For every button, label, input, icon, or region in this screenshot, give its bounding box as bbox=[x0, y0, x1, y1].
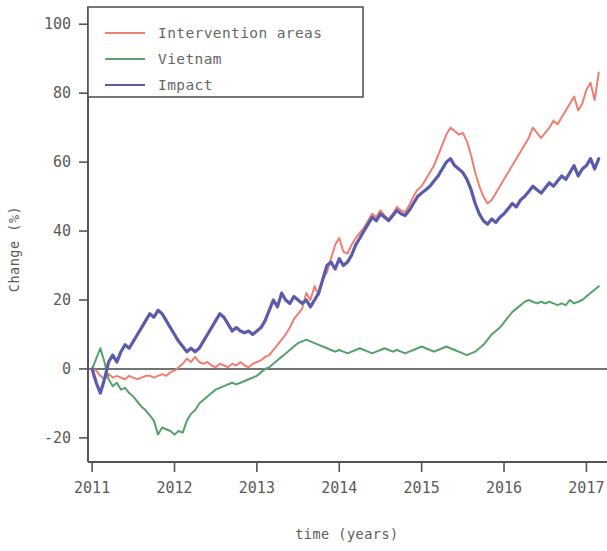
y-axis: -20020406080100 bbox=[44, 15, 88, 447]
x-tick-label: 2013 bbox=[239, 479, 275, 497]
legend-label-vietnam: Vietnam bbox=[158, 51, 222, 67]
y-tick-label: 20 bbox=[53, 291, 71, 309]
chart-legend: Intervention areasVietnamImpact bbox=[88, 7, 363, 97]
x-axis-title: time (years) bbox=[295, 526, 399, 542]
legend-label-intervention-areas: Intervention areas bbox=[158, 25, 322, 41]
x-tick-label: 2016 bbox=[486, 479, 522, 497]
x-tick-label: 2015 bbox=[404, 479, 440, 497]
y-tick-label: 40 bbox=[53, 222, 71, 240]
y-tick-label: 60 bbox=[53, 153, 71, 171]
y-tick-label: 80 bbox=[53, 84, 71, 102]
x-tick-label: 2012 bbox=[156, 479, 192, 497]
line-chart: -20020406080100 201120122013201420152016… bbox=[0, 0, 607, 551]
x-tick-label: 2014 bbox=[321, 479, 357, 497]
x-tick-label: 2011 bbox=[74, 479, 110, 497]
y-axis-title: Change (%) bbox=[6, 206, 22, 292]
y-tick-label: -20 bbox=[44, 429, 71, 447]
figure-canvas: -20020406080100 201120122013201420152016… bbox=[0, 0, 607, 551]
legend-box bbox=[88, 7, 363, 97]
y-tick-label: 100 bbox=[44, 15, 71, 33]
y-tick-label: 0 bbox=[62, 360, 71, 378]
x-axis: 2011201220132014201520162017 bbox=[74, 462, 604, 497]
legend-label-impact: Impact bbox=[158, 77, 213, 93]
x-tick-label: 2017 bbox=[568, 479, 604, 497]
